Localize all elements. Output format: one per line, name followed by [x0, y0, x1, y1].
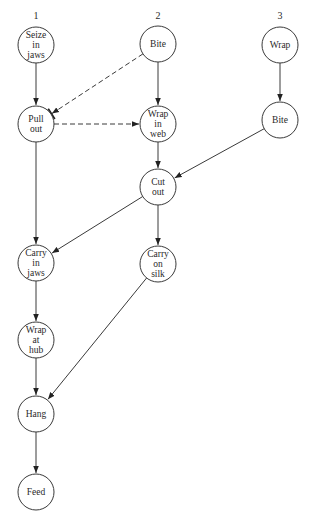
edge-bite2-to-pull [52, 54, 143, 114]
node-label-line: Wrap [270, 40, 291, 50]
column-number-2: 2 [156, 10, 161, 21]
node-bite3: Bite [262, 102, 298, 138]
node-label-line: Pull [28, 114, 44, 124]
edge-carrysilk-to-hang [48, 278, 147, 399]
node-bite2: Bite [140, 26, 176, 62]
column-numbers: 123 [34, 10, 283, 21]
node-label-line: Feed [27, 487, 46, 497]
node-wrapweb: Wrapinweb [140, 106, 176, 142]
behavior-flow-diagram: SeizeinjawsPulloutBiteWrapinwebWrapBiteC… [0, 0, 313, 522]
node-label-line: Wrap [148, 109, 169, 119]
node-label-line: jaws [26, 50, 45, 60]
node-label-line: on [153, 259, 163, 269]
node-label-line: Carry [147, 249, 169, 259]
node-wraphub: Wrapathub [18, 322, 54, 358]
node-label-line: jaws [26, 268, 45, 278]
node-label-line: hub [29, 345, 44, 355]
node-carryjaws: Carryinjaws [18, 245, 54, 281]
node-carrysilk: Carryonsilk [140, 246, 176, 282]
node-label-line: Wrap [26, 325, 47, 335]
node-label-line: Hang [26, 409, 47, 419]
node-label-line: Seize [26, 30, 47, 40]
column-number-3: 3 [278, 10, 283, 21]
node-label-line: Bite [272, 115, 288, 125]
node-label-line: Cut [151, 177, 165, 187]
node-label-line: out [30, 124, 43, 134]
edge-cut-to-carryjaws [52, 197, 143, 254]
node-cut: Cutout [140, 169, 176, 205]
edge-bite3-to-cut [175, 129, 265, 178]
node-label-line: silk [151, 269, 165, 279]
node-pull: Pullout [18, 106, 54, 142]
node-label-line: in [32, 40, 40, 50]
node-label-line: at [33, 335, 40, 345]
node-wrap3: Wrap [262, 27, 298, 63]
node-hang: Hang [18, 396, 54, 432]
column-number-1: 1 [34, 10, 39, 21]
node-label-line: web [150, 129, 166, 139]
node-seize: Seizeinjaws [18, 27, 54, 63]
node-label-line: out [152, 187, 165, 197]
node-feed: Feed [18, 474, 54, 510]
node-label-line: Carry [25, 248, 47, 258]
node-label-line: Bite [150, 39, 166, 49]
node-label-line: in [32, 258, 40, 268]
node-label-line: in [154, 119, 162, 129]
